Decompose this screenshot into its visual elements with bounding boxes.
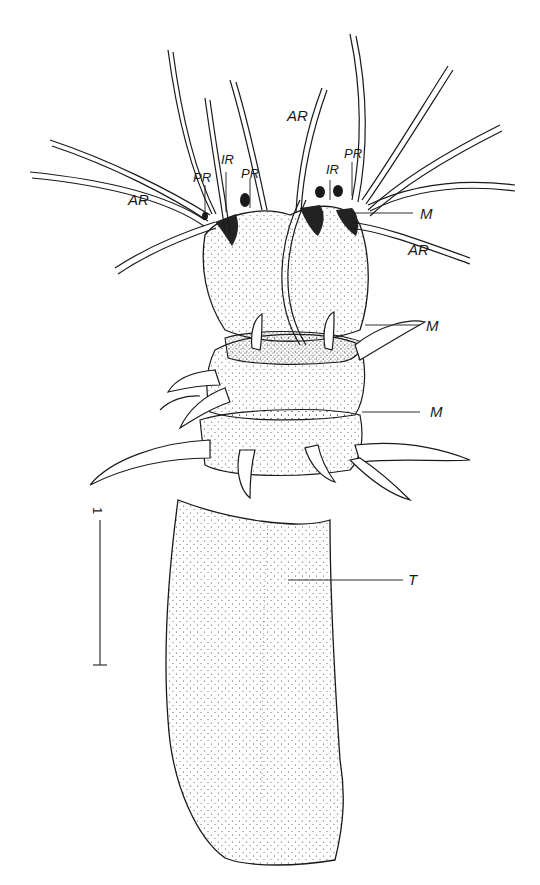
label-pr-left: PR: [193, 171, 211, 184]
label-ar-left: AR: [128, 192, 149, 207]
label-m-top: M: [420, 206, 433, 221]
label-ir-left: IR: [221, 153, 234, 166]
illustration: AR PR IR PR AR IR PR M AR M M T 1: [0, 0, 540, 885]
organism-drawing: [0, 0, 540, 885]
label-t: T: [408, 572, 417, 587]
label-ar-right: AR: [408, 242, 429, 257]
label-ir-right: IR: [326, 163, 339, 176]
label-pr-mid: PR: [241, 167, 259, 180]
scale-bar-label: 1: [91, 507, 104, 514]
label-m-lower: M: [430, 404, 443, 419]
label-ar-top: AR: [287, 108, 308, 123]
label-m-mid: M: [426, 318, 439, 333]
label-pr-right: PR: [344, 147, 362, 160]
scale-bar: [93, 520, 107, 665]
body-trunk: [166, 500, 343, 865]
